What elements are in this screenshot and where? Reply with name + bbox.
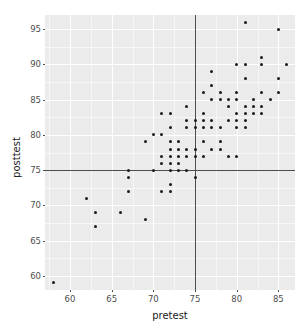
scatter-point bbox=[202, 140, 205, 143]
gridline-minor-horizontal bbox=[45, 117, 295, 118]
scatter-point bbox=[277, 28, 280, 31]
scatter-point bbox=[160, 133, 163, 136]
scatter-point bbox=[227, 155, 230, 158]
scatter-point bbox=[252, 98, 255, 101]
scatter-point bbox=[177, 169, 180, 172]
scatter-point bbox=[185, 119, 188, 122]
scatter-point bbox=[219, 98, 222, 101]
gridline-major-horizontal bbox=[45, 241, 295, 242]
scatter-point bbox=[227, 119, 230, 122]
y-tick-label: 95 bbox=[30, 24, 41, 34]
scatter-point bbox=[185, 169, 188, 172]
scatter-point bbox=[177, 148, 180, 151]
y-tick-mark bbox=[43, 241, 45, 242]
scatter-point bbox=[169, 190, 172, 193]
scatter-point bbox=[202, 112, 205, 115]
scatter-point bbox=[244, 77, 247, 80]
scatter-point bbox=[152, 133, 155, 136]
scatter-point bbox=[144, 140, 147, 143]
reference-line-vertical bbox=[195, 15, 196, 290]
scatter-point bbox=[210, 84, 213, 87]
scatter-point bbox=[169, 112, 172, 115]
scatter-point bbox=[185, 155, 188, 158]
scatter-point bbox=[219, 148, 222, 151]
scatter-point bbox=[235, 112, 238, 115]
gridline-major-vertical bbox=[278, 15, 279, 290]
scatter-point bbox=[94, 211, 97, 214]
scatter-point bbox=[194, 176, 197, 179]
scatter-point bbox=[144, 218, 147, 221]
y-tick-mark bbox=[43, 276, 45, 277]
scatter-point bbox=[194, 148, 197, 151]
scatter-point bbox=[169, 183, 172, 186]
x-tick-mark bbox=[112, 290, 113, 292]
scatter-point bbox=[94, 225, 97, 228]
scatter-point bbox=[127, 169, 130, 172]
scatter-point bbox=[202, 126, 205, 129]
scatter-point bbox=[210, 119, 213, 122]
x-tick-mark bbox=[278, 290, 279, 292]
x-axis-title: pretest bbox=[45, 310, 295, 321]
gridline-major-horizontal bbox=[45, 276, 295, 277]
scatter-point bbox=[127, 190, 130, 193]
scatter-point bbox=[269, 98, 272, 101]
x-tick-mark bbox=[70, 290, 71, 292]
scatter-point bbox=[235, 91, 238, 94]
y-tick-mark bbox=[43, 205, 45, 206]
scatter-point bbox=[219, 91, 222, 94]
y-axis-title: posttest bbox=[11, 118, 22, 198]
scatter-point bbox=[160, 112, 163, 115]
scatter-point bbox=[185, 148, 188, 151]
scatter-point bbox=[219, 140, 222, 143]
scatter-point bbox=[210, 70, 213, 73]
scatter-point bbox=[210, 126, 213, 129]
scatter-point bbox=[260, 105, 263, 108]
scatter-point bbox=[160, 162, 163, 165]
x-tick-mark bbox=[153, 290, 154, 292]
scatter-point bbox=[169, 148, 172, 151]
scatter-plot-figure: 6065707580859095 606570758085 pretest po… bbox=[0, 0, 307, 336]
gridline-major-vertical bbox=[237, 15, 238, 290]
scatter-point bbox=[235, 155, 238, 158]
y-tick-mark bbox=[43, 170, 45, 171]
scatter-point bbox=[169, 162, 172, 165]
gridline-major-horizontal bbox=[45, 205, 295, 206]
scatter-point bbox=[177, 155, 180, 158]
scatter-point bbox=[194, 126, 197, 129]
x-tick-label: 80 bbox=[231, 294, 242, 304]
x-tick-label: 60 bbox=[65, 294, 76, 304]
gridline-minor-horizontal bbox=[45, 153, 295, 154]
scatter-point bbox=[260, 56, 263, 59]
scatter-point bbox=[160, 190, 163, 193]
scatter-point bbox=[235, 98, 238, 101]
scatter-point bbox=[169, 126, 172, 129]
scatter-point bbox=[252, 112, 255, 115]
scatter-point bbox=[194, 119, 197, 122]
gridline-minor-horizontal bbox=[45, 188, 295, 189]
scatter-point bbox=[185, 105, 188, 108]
y-tick-label: 70 bbox=[30, 200, 41, 210]
scatter-point bbox=[194, 155, 197, 158]
x-tick-label: 65 bbox=[106, 294, 117, 304]
scatter-point bbox=[169, 155, 172, 158]
y-tick-label: 90 bbox=[30, 59, 41, 69]
scatter-point bbox=[260, 91, 263, 94]
scatter-point bbox=[244, 63, 247, 66]
gridline-minor-horizontal bbox=[45, 223, 295, 224]
scatter-point bbox=[235, 126, 238, 129]
scatter-point bbox=[244, 126, 247, 129]
scatter-point bbox=[52, 281, 55, 284]
y-tick-mark bbox=[43, 100, 45, 101]
gridline-major-horizontal bbox=[45, 100, 295, 101]
y-tick-mark bbox=[43, 29, 45, 30]
gridline-minor-horizontal bbox=[45, 82, 295, 83]
y-tick-label: 80 bbox=[30, 130, 41, 140]
scatter-point bbox=[185, 126, 188, 129]
scatter-point bbox=[169, 140, 172, 143]
y-tick-mark bbox=[43, 64, 45, 65]
y-tick-label: 60 bbox=[30, 271, 41, 281]
scatter-point bbox=[252, 105, 255, 108]
y-tick-label: 75 bbox=[30, 165, 41, 175]
scatter-point bbox=[219, 126, 222, 129]
scatter-point bbox=[277, 91, 280, 94]
